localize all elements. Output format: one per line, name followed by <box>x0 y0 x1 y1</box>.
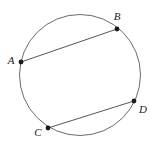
point-d-dot <box>132 99 137 104</box>
point-a-dot <box>19 60 24 65</box>
point-b-dot <box>115 27 120 32</box>
chord-cd <box>48 101 134 128</box>
point-d-label: D <box>138 103 147 115</box>
circle-diagram-canvas: A B C D <box>0 0 157 147</box>
point-c-dot <box>46 126 51 131</box>
geometry-figure: A B C D <box>0 0 157 147</box>
point-b-label: B <box>114 10 121 22</box>
point-a-label: A <box>7 54 15 66</box>
point-c-label: C <box>34 126 42 138</box>
circle-outline <box>20 15 141 136</box>
